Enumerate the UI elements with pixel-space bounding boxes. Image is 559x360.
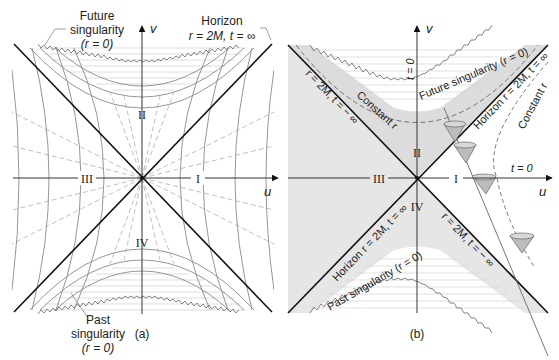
svg-text:singularity: singularity (71, 327, 125, 341)
region-II-label: II (138, 108, 146, 122)
panel-a: v u III I II IV Future singularity (r = … (12, 9, 278, 355)
u-axis-label-b: u (539, 184, 546, 199)
past-singularity-annotation: Past singularity (r = 0) (71, 293, 125, 355)
origin-dot (140, 176, 144, 180)
region-I-label-b: I (454, 172, 458, 186)
t-zero-horizontal-label: t = 0 (511, 162, 534, 174)
svg-text:Future: Future (80, 9, 115, 23)
region-IV-label-b: IV (411, 200, 424, 214)
future-singularity-annotation: Future singularity (r = 0) (45, 9, 124, 51)
svg-text:(r = 0): (r = 0) (81, 37, 113, 51)
region-III-label-b: III (373, 172, 385, 186)
v-axis-label-b: v (426, 21, 434, 36)
horizon-annotation: Horizon r = 2M, t = ∞ (189, 14, 271, 43)
svg-text:Past: Past (86, 313, 111, 327)
panel-b-caption: (b) (410, 327, 425, 341)
svg-text:singularity: singularity (70, 23, 124, 37)
region-IV-label: IV (136, 236, 149, 250)
svg-text:r = 2M, t = ∞: r = 2M, t = ∞ (189, 29, 256, 43)
svg-text:(r = 0): (r = 0) (82, 341, 114, 355)
t-zero-vertical-label: t = 0 (404, 57, 416, 80)
future-singularity-zigzag (38, 44, 239, 62)
region-II-label-b: II (413, 146, 421, 160)
region-III-label: III (81, 172, 93, 186)
svg-text:Horizon: Horizon (201, 14, 242, 28)
past-singularity-hatch (40, 268, 246, 310)
u-axis-label: u (264, 184, 271, 199)
panel-a-caption: (a) (135, 327, 150, 341)
kruskal-diagram: v u III I II IV Future singularity (r = … (0, 0, 559, 360)
region-I-label: I (196, 172, 200, 186)
panel-b: v u III I II IV Future singularity (r = … (288, 21, 552, 356)
v-axis-label: v (150, 21, 158, 36)
